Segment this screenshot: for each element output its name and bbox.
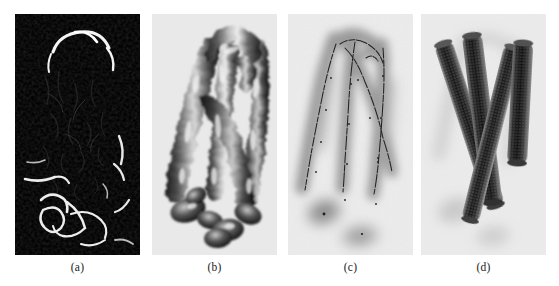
panel-a-caption: (a) (15, 261, 140, 273)
figure-panel-row: (a) (0, 0, 559, 286)
panel-d-canvas (421, 14, 546, 255)
panel-b-caption: (b) (152, 261, 277, 273)
panel-d-caption: (d) (421, 261, 546, 273)
panel-d-cylinder-models (421, 14, 546, 255)
panel-c-grain (288, 14, 413, 255)
panel-b-canvas (152, 14, 277, 255)
panel-a-canvas (15, 14, 140, 255)
panel-c-caption: (c) (288, 261, 413, 273)
panel-a-binary-vessel-mask (15, 14, 140, 255)
panel-c-canvas (288, 14, 413, 255)
panel-b-shaded-isosurface (152, 14, 277, 255)
panel-d-grain (421, 14, 546, 255)
panel-c-blurred-with-centerlines (288, 14, 413, 255)
